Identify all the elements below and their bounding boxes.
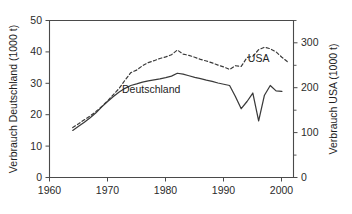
series-annotation-deutschland: Deutschland xyxy=(122,83,181,95)
right-axis-ticks xyxy=(294,21,298,178)
y2-tick-label-100: 100 xyxy=(301,126,319,138)
left-axis-ticks xyxy=(46,21,50,178)
y-tick-label-20: 20 xyxy=(30,108,42,120)
x-tick-label-1970: 1970 xyxy=(96,184,120,196)
series-line-deutschland xyxy=(73,73,282,130)
y-tick-label-10: 10 xyxy=(30,140,42,152)
plot-frame xyxy=(50,21,294,178)
y-tick-label-0: 0 xyxy=(36,171,42,183)
chart-container: 50 40 30 20 10 0 Verbrauch Deutschland (… xyxy=(0,0,352,214)
y2-tick-label-300: 300 xyxy=(301,36,319,48)
right-axis-title: Verbrauch USA (1000 t) xyxy=(327,44,339,155)
y2-tick-label-0: 0 xyxy=(301,171,307,183)
x-tick-label-1980: 1980 xyxy=(154,184,178,196)
x-tick-label-1960: 1960 xyxy=(38,184,62,196)
y-tick-label-50: 50 xyxy=(30,14,42,26)
x-tick-label-1990: 1990 xyxy=(212,184,236,196)
y-tick-label-40: 40 xyxy=(30,45,42,57)
line-chart: 50 40 30 20 10 0 Verbrauch Deutschland (… xyxy=(0,0,352,214)
series-annotation-usa: USA xyxy=(248,52,270,64)
x-axis-ticks xyxy=(50,178,282,182)
y-tick-label-30: 30 xyxy=(30,77,42,89)
x-tick-label-2000: 2000 xyxy=(270,184,294,196)
y2-tick-label-200: 200 xyxy=(301,81,319,93)
left-axis-title: Verbrauch Deutschland (1000 t) xyxy=(7,25,19,173)
